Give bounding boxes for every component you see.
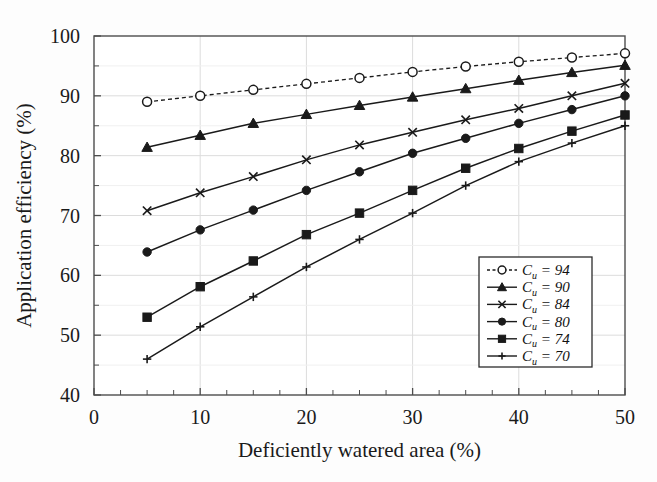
legend-value: = 70 xyxy=(537,348,570,364)
chart-figure: 40506070809010001020304050Deficiently wa… xyxy=(0,0,657,482)
y-tick-label: 40 xyxy=(60,384,80,406)
marker-filled-square xyxy=(408,186,416,194)
line-chart: 40506070809010001020304050Deficiently wa… xyxy=(0,0,657,482)
marker-open-circle xyxy=(355,73,364,82)
marker-filled-square xyxy=(196,283,204,291)
marker-filled-circle xyxy=(143,248,151,256)
y-tick-label: 50 xyxy=(60,324,80,346)
marker-open-circle xyxy=(498,266,506,274)
legend-value: = 90 xyxy=(537,279,570,295)
legend-value: = 74 xyxy=(537,331,570,347)
legend: Cu = 94Cu = 90Cu = 84Cu = 80Cu = 74Cu = … xyxy=(479,257,592,367)
legend-value: = 94 xyxy=(537,262,570,278)
y-tick-labels: 405060708090100 xyxy=(50,25,80,406)
marker-open-circle xyxy=(143,97,152,106)
marker-open-circle xyxy=(621,49,630,58)
marker-filled-circle xyxy=(462,134,470,142)
marker-filled-square xyxy=(515,144,523,152)
marker-filled-square xyxy=(621,111,629,119)
marker-filled-circle xyxy=(408,149,416,157)
x-tick-label: 40 xyxy=(509,406,529,428)
marker-filled-square xyxy=(249,257,257,265)
x-tick-label: 10 xyxy=(190,406,210,428)
legend-label: Cu = 84 xyxy=(522,296,570,315)
marker-filled-circle xyxy=(498,318,505,325)
marker-filled-circle xyxy=(302,186,310,194)
marker-filled-circle xyxy=(568,105,576,113)
marker-open-circle xyxy=(461,62,470,71)
marker-filled-circle xyxy=(355,168,363,176)
y-axis-title: Application efficiency (%) xyxy=(12,103,36,328)
y-tick-label: 80 xyxy=(60,145,80,167)
y-tick-label: 90 xyxy=(60,85,80,107)
marker-filled-square xyxy=(568,127,576,135)
marker-filled-circle xyxy=(515,119,523,127)
legend-label: Cu = 94 xyxy=(522,262,570,281)
y-tick-label: 100 xyxy=(50,25,80,47)
marker-filled-square xyxy=(498,335,505,342)
marker-filled-circle xyxy=(196,226,204,234)
marker-filled-square xyxy=(143,313,151,321)
marker-filled-circle xyxy=(621,92,629,100)
x-tick-labels: 01020304050 xyxy=(89,406,635,428)
legend-label: Cu = 80 xyxy=(522,314,570,333)
x-tick-label: 20 xyxy=(296,406,316,428)
marker-open-circle xyxy=(302,79,311,88)
x-tick-label: 30 xyxy=(403,406,423,428)
y-tick-label: 60 xyxy=(60,264,80,286)
x-axis-title: Deficiently watered area (%) xyxy=(238,438,481,462)
x-tick-label: 50 xyxy=(615,406,635,428)
legend-label: Cu = 90 xyxy=(522,279,570,298)
marker-filled-circle xyxy=(249,206,257,214)
marker-filled-square xyxy=(302,230,310,238)
y-tick-label: 70 xyxy=(60,205,80,227)
legend-value: = 80 xyxy=(537,314,570,330)
marker-filled-square xyxy=(355,209,363,217)
marker-open-circle xyxy=(567,53,576,62)
marker-open-circle xyxy=(249,85,258,94)
marker-open-circle xyxy=(408,67,417,76)
legend-value: = 84 xyxy=(537,296,570,312)
marker-open-circle xyxy=(196,91,205,100)
legend-label: Cu = 74 xyxy=(522,331,570,350)
marker-open-circle xyxy=(514,57,523,66)
legend-label: Cu = 70 xyxy=(522,348,570,367)
marker-filled-square xyxy=(462,164,470,172)
x-tick-label: 0 xyxy=(89,406,99,428)
